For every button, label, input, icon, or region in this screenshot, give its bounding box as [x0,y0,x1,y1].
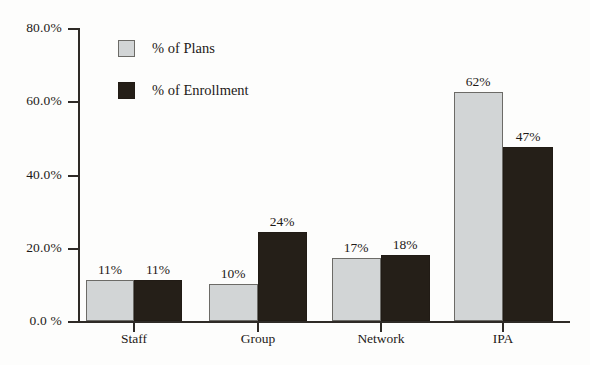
bar-value-ipa-enrollment: 47% [488,129,568,145]
legend-swatch-enrollment-icon [118,82,135,99]
legend-swatch-plans-icon [118,40,135,57]
y-tick-mark-40 [68,175,80,177]
bar-staff-plans [86,280,134,321]
legend-label-plans: % of Plans [152,40,215,57]
y-tick-label-40: 40.0% [0,167,62,183]
legend-label-enrollment: % of Enrollment [152,82,249,99]
bar-ipa-enrollment [503,147,553,321]
y-tick-label-80: 80.0% [0,20,62,36]
bar-network-plans [332,258,381,321]
bar-group-enrollment [258,232,307,321]
bar-chart: 80.0% 60.0% 40.0% 20.0% 0.0 % Staff Grou… [0,0,590,365]
legend-item-enrollment: % of Enrollment [118,82,249,99]
bar-group-plans [209,284,258,321]
bar-value-ipa-plans: 62% [438,74,518,90]
y-tick-mark-0 [68,321,80,323]
x-tick-label-ipa: IPA [443,331,563,347]
x-tick-label-staff: Staff [74,331,194,347]
y-tick-label-60: 60.0% [0,93,62,109]
x-tick-label-group: Group [198,331,318,347]
bar-value-group-enrollment: 24% [242,214,322,230]
bar-value-network-enrollment: 18% [365,237,445,253]
legend-item-plans: % of Plans [118,40,215,57]
bar-network-enrollment [381,255,430,321]
x-axis-line [78,321,570,323]
y-tick-mark-60 [68,101,80,103]
y-tick-mark-20 [68,248,80,250]
y-tick-label-0: 0.0 % [0,313,62,329]
y-tick-label-20: 20.0% [0,240,62,256]
bar-ipa-plans [454,92,503,321]
bar-value-staff-enrollment: 11% [118,262,198,278]
y-tick-mark-80 [68,28,80,30]
bar-staff-enrollment [134,280,182,321]
x-tick-label-network: Network [321,331,441,347]
